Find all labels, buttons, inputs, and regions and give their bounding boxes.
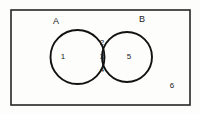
region-label-intersect-bottom: 4 — [100, 65, 105, 74]
set-a-label: A — [53, 16, 59, 26]
set-b-label: B — [139, 14, 145, 24]
region-label-intersect-top: 2 — [100, 38, 105, 47]
set-a-circle — [51, 30, 105, 84]
region-label-outside: 6 — [170, 81, 175, 90]
venn-diagram-canvas: A B 1 2 3 4 5 6 — [0, 0, 200, 114]
region-label-intersect-mid: 3 — [100, 52, 105, 61]
region-label-b-only: 5 — [127, 52, 132, 61]
venn-diagram: A B 1 2 3 4 5 6 — [0, 0, 200, 114]
region-label-a-only: 1 — [61, 52, 66, 61]
